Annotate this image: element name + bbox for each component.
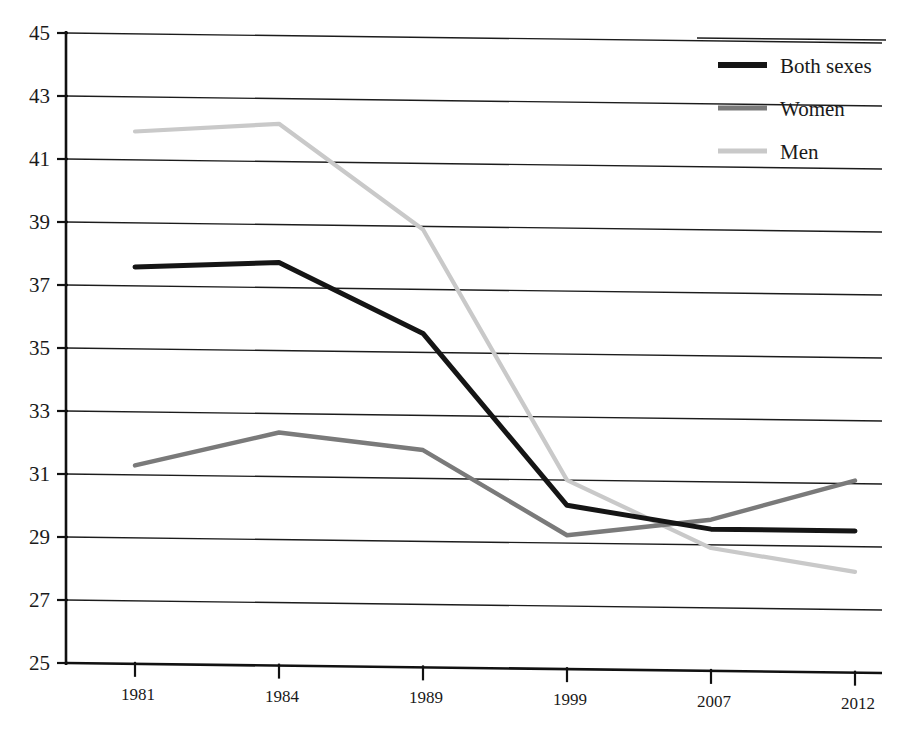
x-axis-tick-label: 2012 [841, 694, 875, 713]
chart-container: 4543413937353331292725 19811984198919992… [0, 0, 905, 738]
x-axis-tick-label: 2007 [697, 692, 732, 711]
x-axis-tick-label: 1984 [265, 687, 300, 706]
line-chart: 4543413937353331292725 19811984198919992… [0, 0, 905, 738]
y-axis-tick-label: 25 [29, 651, 50, 675]
x-axis-tick-label: 1999 [553, 690, 587, 709]
y-axis-tick-label: 27 [29, 588, 50, 612]
legend-label-men: Men [780, 140, 819, 164]
legend-label-women: Women [780, 97, 845, 121]
x-axis-tick-label: 1989 [409, 688, 443, 707]
y-axis-tick-label: 39 [29, 210, 50, 234]
y-axis-tick-label: 37 [29, 273, 50, 297]
y-axis-tick-label: 35 [29, 336, 50, 360]
y-axis-tick-label: 33 [29, 399, 50, 423]
x-axis-tick-label: 1981 [121, 685, 155, 704]
y-axis-tick-label: 43 [29, 84, 50, 108]
legend-label-both-sexes: Both sexes [780, 54, 872, 78]
y-axis-tick-label: 31 [29, 462, 50, 486]
y-axis-tick-label: 45 [29, 21, 50, 45]
y-axis-tick-label: 29 [29, 525, 50, 549]
y-axis-tick-label: 41 [29, 147, 50, 171]
